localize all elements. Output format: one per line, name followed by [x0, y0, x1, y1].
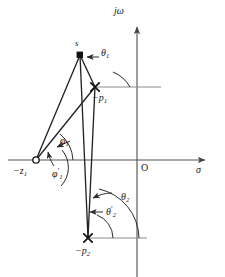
- pole-zero-diagram-figure: jω σ O s −p1 −p2 −z1 θ1 θ2 θ′2 φ1 φ′1: [0, 0, 225, 277]
- phi1-prime-glyph: φ: [52, 168, 58, 179]
- theta2-prime-arc: [97, 215, 113, 238]
- line-s-to-p2: [80, 55, 88, 238]
- z1-label-sub: 1: [24, 170, 27, 177]
- theta2-pointer-arrow: [93, 193, 112, 198]
- theta2-prime-label: θ′2: [106, 207, 116, 217]
- z1-zero-marker: [33, 157, 39, 163]
- theta2-prime-sub: 2: [113, 211, 116, 218]
- p1-label-sub: 1: [104, 97, 107, 104]
- theta1-arc: [113, 72, 130, 87]
- z1-point-label: −z1: [13, 166, 27, 176]
- p2-label-text: −p: [75, 245, 87, 256]
- real-axis-label: σ: [196, 165, 201, 175]
- line-p1-to-p2: [88, 87, 95, 238]
- phi1-sub: 1: [66, 140, 69, 147]
- p1-label-text: −p: [92, 92, 104, 103]
- theta2-arc: [99, 189, 139, 238]
- s-point-marker: [77, 52, 83, 58]
- phi1-label: φ1: [60, 136, 69, 146]
- p2-label-sub: 2: [87, 250, 90, 257]
- diagram-canvas: [0, 0, 225, 277]
- p2-point-label: −p2: [75, 246, 90, 256]
- axis-group: [8, 27, 205, 277]
- phi1-glyph: φ: [60, 135, 66, 146]
- pointer-arrows: [48, 57, 112, 212]
- theta1-sub: 1: [106, 52, 109, 59]
- theta2-label: θ2: [121, 192, 129, 202]
- line-z1-to-s: [36, 55, 80, 160]
- s-point-label: s: [75, 39, 79, 48]
- phi1-prime-label: φ′1: [52, 169, 63, 179]
- theta1-label: θ1: [101, 48, 109, 58]
- z1-label-text: −z: [13, 165, 24, 176]
- origin-label: O: [141, 163, 148, 173]
- theta2-sub: 2: [126, 196, 129, 203]
- phi1-prime-pointer-arrow: [48, 152, 54, 166]
- line-z1-to-p1: [36, 87, 95, 160]
- phi1-prime-sub: 1: [59, 173, 62, 180]
- imaginary-axis-label: jω: [114, 6, 124, 16]
- phi1-prime-arc: [61, 150, 68, 186]
- line-s-to-p1: [80, 55, 95, 87]
- p1-point-label: −p1: [92, 93, 107, 103]
